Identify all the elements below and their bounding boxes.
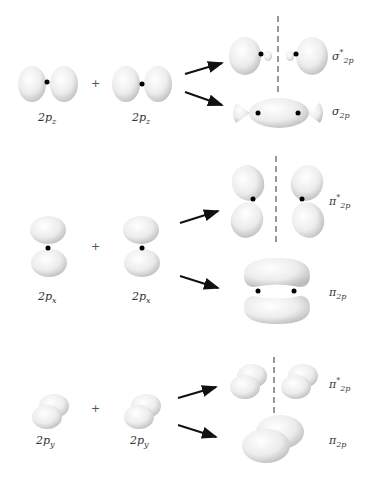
ao-2py-left bbox=[32, 394, 69, 429]
ao-2pz-right bbox=[112, 66, 172, 102]
ao-label-2py-right: 2py bbox=[130, 434, 149, 449]
mo-label-pi-star: π*2p bbox=[329, 193, 350, 210]
arrow-to-bonding bbox=[178, 425, 216, 437]
mo-label-sigma: σ2p bbox=[332, 105, 350, 120]
ao-2px-right bbox=[123, 216, 160, 277]
ao-2px-left bbox=[30, 216, 67, 277]
mo-label-pi: π2p bbox=[329, 434, 346, 449]
ao-label-2pz-right: 2pz bbox=[132, 111, 150, 126]
mo-label-pi: π2p bbox=[329, 286, 346, 301]
plus-sign: + bbox=[91, 77, 100, 90]
ao-2py-right bbox=[124, 394, 161, 429]
mo-sigma-2p bbox=[233, 98, 323, 128]
ao-label-2px-right: 2px bbox=[132, 290, 151, 305]
arrow-to-bonding bbox=[180, 276, 218, 288]
mo-label-pi-star: π*2p bbox=[329, 376, 350, 393]
ao-label-2py-left: 2py bbox=[36, 434, 55, 449]
plus-sign: + bbox=[91, 240, 100, 253]
ao-2pz-left bbox=[18, 66, 78, 102]
orbital-diagram bbox=[0, 0, 365, 483]
mo-pi-2p-x bbox=[244, 258, 310, 324]
mo-pi-star-2p-x bbox=[226, 161, 329, 243]
ao-label-2pz-left: 2pz bbox=[38, 111, 56, 126]
arrow-to-antibonding bbox=[180, 211, 218, 223]
plus-sign: + bbox=[91, 402, 100, 415]
arrow-to-antibonding bbox=[178, 387, 216, 398]
mo-label-sigma-star: σ*2p bbox=[332, 48, 354, 65]
mo-pi-2p-y bbox=[242, 415, 304, 463]
arrow-to-bonding bbox=[185, 92, 222, 105]
arrow-to-antibonding bbox=[185, 63, 222, 74]
ao-label-2px-left: 2px bbox=[38, 290, 57, 305]
